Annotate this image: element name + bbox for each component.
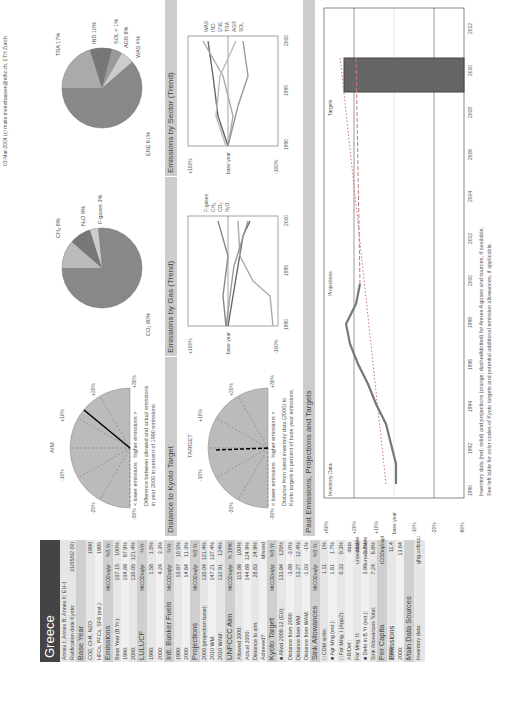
table-row: 2010 WAM:132.91124% <box>216 540 224 662</box>
svg-text:1995: 1995 <box>283 265 289 276</box>
svg-text:base year: base year <box>225 332 231 354</box>
copyright: 03-Mar-2004 (c) malte.meinshausen@ethz.c… <box>2 36 8 166</box>
svg-text:1992: 1992 <box>467 443 473 454</box>
table-row: 2000:130.05121.4% <box>129 540 137 662</box>
svg-text:+10%: +10% <box>59 409 65 422</box>
table-row: Actual 2000:144.69124.9% <box>243 540 251 662</box>
svg-text:2010: 2010 <box>467 65 473 76</box>
aim-gauge: AIM -10%+10% -20%+20% -30%+30% <box>40 360 140 536</box>
svg-text:IND 10%: IND 10% <box>91 22 97 44</box>
svg-text:+30%: +30% <box>131 375 137 388</box>
table-row: ■ Agr Mng (est.):1.811.7% <box>328 540 336 662</box>
sector-trend-title: Emissions by Sector (Trend) <box>165 0 177 176</box>
svg-text:2006: 2006 <box>467 149 473 160</box>
section-header: Per Capita EmissionstCO2eq/cap/yr <box>377 540 387 662</box>
svg-text:-30%: -30% <box>131 508 137 520</box>
section-header: Intl. Bunker FuelsMtCO2eq/yr%Yr. <box>164 540 174 662</box>
table-row: Distance from WM:13.2712.4% <box>294 540 302 662</box>
table-row: CO2, CH4, N2O1990 <box>86 540 94 662</box>
svg-text:1995: 1995 <box>283 85 289 96</box>
sector-trend-panel: +100%base year-100% 199019952000 WASINDE… <box>178 0 303 176</box>
svg-text:-60%: -60% <box>459 522 465 534</box>
svg-text:+30%: +30% <box>269 375 275 388</box>
svg-text:-20%: -20% <box>90 502 96 514</box>
svg-text:1994: 1994 <box>467 401 473 412</box>
svg-text:2000: 2000 <box>467 275 473 286</box>
table-row: AR/Def.:data unavailable <box>345 540 353 662</box>
section-header: LULUCFMtCO2eq/yr%Yr. <box>137 540 147 662</box>
svg-text:+20%: +20% <box>228 383 234 396</box>
svg-text:base year: base year <box>391 512 397 534</box>
table-row: Inventory data:ghg.unfccc.int <box>414 540 422 662</box>
table-row: Sink Allowances Total:7.246.8% <box>369 540 377 662</box>
svg-text:2000: 2000 <box>283 215 289 226</box>
svg-text:2008: 2008 <box>467 107 473 118</box>
gas-pie-panel: CO₂ 80%CH₄ 8%N₂O 9%F-gases 3% <box>40 180 165 356</box>
table-row: Base Year (B.Yr.):107.15100% <box>113 540 121 662</box>
svg-text:Projections: Projections <box>327 271 333 296</box>
table-row: 2010 WM:147.21137.4% <box>208 540 216 662</box>
svg-text:SOL: SOL <box>238 22 244 32</box>
table-row: □ CDM sinks:1.111% <box>320 540 328 662</box>
svg-text:TRA 17%: TRA 17% <box>55 33 61 56</box>
gas-pie: CO₂ 80%CH₄ 8%N₂O 9%F-gases 3% <box>40 180 165 356</box>
past-emissions-chart: Inventory DataProjectionsTargets +60%+20… <box>316 0 476 536</box>
sector-trend-chart: +100%base year-100% 199019952000 WASINDE… <box>178 0 303 176</box>
section-header: Kyoto TargetMtCO2eq/yr%B.Yr. <box>267 540 277 662</box>
svg-text:+10%: +10% <box>373 521 379 534</box>
table-row: Distance from 2000:-3.89-3.0% <box>286 540 294 662</box>
svg-text:1990: 1990 <box>467 485 473 496</box>
svg-text:Targets: Targets <box>327 99 333 116</box>
svg-text:+100%: +100% <box>187 158 193 174</box>
svg-text:1996: 1996 <box>467 359 473 370</box>
kyoto-panel: TARGET -10%+10% -20%+20% -30%+30% < lowe… <box>178 360 303 536</box>
svg-text:+100%: +100% <box>187 338 193 354</box>
svg-text:SOL < 1%: SOL < 1% <box>113 19 119 44</box>
table-row: 1990:10.9710.5% <box>174 540 182 662</box>
table-row: 2000:13.64 <box>396 540 404 662</box>
table-row: 1990:1.581.5% <box>147 540 155 662</box>
aim-panel: AIM -10%+10% -20%+20% -30%+30% < lower e… <box>40 360 165 536</box>
svg-text:-10%: -10% <box>197 469 203 481</box>
svg-text:WAS: WAS <box>203 20 209 32</box>
svg-text:AGR 8%: AGR 8% <box>123 26 129 48</box>
svg-text:-10%: -10% <box>411 522 417 534</box>
gas-trend-panel: +100%base year-100% 199019952000 F-gases… <box>178 180 303 356</box>
table-row: Distance from WAM:-1.03-1% <box>302 540 310 662</box>
past-title: Past Emissions, Projections and Targets <box>303 0 315 536</box>
svg-text:+60%: +60% <box>323 521 329 534</box>
table-row: 1990:11.4 <box>387 540 395 662</box>
table-row: Distance to aim:28.8324.9% <box>251 540 259 662</box>
svg-text:TRA: TRA <box>224 21 230 32</box>
svg-text:-100%: -100% <box>273 159 279 174</box>
svg-text:F-gases 3%: F-gases 3% <box>97 195 103 224</box>
table-row: ■ Allwd 2008-12 (EU):133.94125% <box>277 540 285 662</box>
svg-text:2002: 2002 <box>467 233 473 244</box>
svg-text:TARGET: TARGET <box>187 434 193 458</box>
svg-text:WAS 4%: WAS 4% <box>135 36 141 58</box>
svg-text:1990: 1990 <box>283 319 289 330</box>
table-row: Achieved?:Missed <box>259 540 267 662</box>
table-row: 1990:104.8997.9% <box>121 540 129 662</box>
section-header: Base Year <box>76 540 86 662</box>
table-row: 2000:4.243.3% <box>156 540 164 662</box>
svg-text:Inventory Data: Inventory Data <box>327 463 333 496</box>
table-row: □ For Mng. I (AppZ):0.330.3% <box>337 540 345 662</box>
table-row: 2000 (projection base):130.04121.4% <box>200 540 208 662</box>
sector-pie-panel: ENE 61%TRA 17%IND 10%SOL < 1%AGR 8%WAS 4… <box>40 0 165 176</box>
gas-trend-chart: +100%base year-100% 199019952000 F-gases… <box>178 180 303 356</box>
table-row: 2000:14.6411.3% <box>182 540 190 662</box>
sector-pie: ENE 61%TRA 17%IND 10%SOL < 1%AGR 8%WAS 4… <box>40 0 165 176</box>
svg-text:-30%: -30% <box>269 508 275 520</box>
section-header: Sink AllowancesMtCO2eq/yr%B.Yr. <box>310 540 320 662</box>
section-header: ProjectionsMtCO2eq/yr%B.Yr. <box>190 540 200 662</box>
svg-text:2004: 2004 <box>467 191 473 202</box>
svg-text:AIM: AIM <box>49 442 55 453</box>
kyoto-title: Distance to Kyoto Target <box>165 357 177 536</box>
svg-text:-20%: -20% <box>431 522 437 534</box>
country-table: Greece Annex I; Annex B; Annex II; EU-15… <box>40 540 425 662</box>
gas-trend-title: Emissions by Gas (Trend) <box>165 177 177 356</box>
svg-text:CH₄: CH₄ <box>210 203 216 212</box>
svg-text:F-gases: F-gases <box>203 193 209 212</box>
svg-text:CO₂ 80%: CO₂ 80% <box>145 313 151 336</box>
